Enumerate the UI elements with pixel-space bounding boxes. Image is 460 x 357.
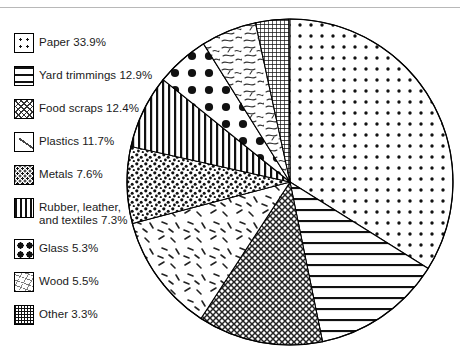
legend-item-other[interactable]: Other 3.3%	[14, 305, 98, 325]
legend-label-food-scraps: Food scraps 12.4%	[39, 99, 139, 115]
legend-swatch-rubber-leather-textiles	[14, 198, 34, 218]
pie-slice-rubber-leather-and-textiles[interactable]	[131, 80, 290, 182]
legend-label-paper: Paper 33.9%	[39, 33, 106, 49]
legend-item-rubber-leather-textiles[interactable]: Rubber, leather, and textiles 7.3%	[14, 198, 127, 226]
pie-slice-plastics[interactable]	[132, 182, 290, 319]
legend-item-paper[interactable]: Paper 33.9%	[14, 33, 106, 53]
legend-label-yard-trimmings: Yard trimmings 12.9%	[39, 66, 152, 82]
legend-item-food-scraps[interactable]: Food scraps 12.4%	[14, 99, 139, 119]
legend-label-metals: Metals 7.6%	[39, 165, 103, 181]
legend-label-plastics: Plastics 11.7%	[39, 132, 114, 148]
legend-swatch-glass	[14, 239, 34, 259]
pie-slice-wood[interactable]	[204, 23, 290, 182]
legend-item-metals[interactable]: Metals 7.6%	[14, 165, 103, 185]
legend-swatch-yard-trimmings	[14, 66, 34, 86]
pie-outline	[127, 19, 453, 345]
pie-slice-metals[interactable]	[127, 146, 290, 223]
legend-label-glass: Glass 5.3%	[39, 239, 98, 255]
legend-label-rubber-leather-textiles: Rubber, leather, and textiles 7.3%	[39, 198, 127, 226]
legend-label-wood: Wood 5.5%	[39, 272, 99, 288]
legend-item-plastics[interactable]: Plastics 11.7%	[14, 132, 114, 152]
legend-label-other: Other 3.3%	[39, 305, 98, 321]
legend-swatch-food-scraps	[14, 99, 34, 119]
legend-swatch-metals	[14, 165, 34, 185]
header-rule	[0, 7, 460, 8]
pie-slice-other[interactable]	[255, 19, 290, 182]
legend-swatch-plastics	[14, 132, 34, 152]
pie-slice-paper[interactable]	[290, 19, 453, 268]
legend-item-glass[interactable]: Glass 5.3%	[14, 239, 98, 259]
pie-slice-yard-trimmings[interactable]	[290, 182, 428, 342]
legend-item-wood[interactable]: Wood 5.5%	[14, 272, 99, 292]
legend-swatch-paper	[14, 33, 34, 53]
legend-swatch-wood	[14, 272, 34, 292]
pie-chart-figure: Paper 33.9% Yard trimmings 12.9% Food sc…	[0, 0, 460, 357]
pie-slice-glass[interactable]	[163, 44, 290, 182]
legend-item-yard-trimmings[interactable]: Yard trimmings 12.9%	[14, 66, 152, 86]
pie-slice-food-scraps[interactable]	[201, 182, 323, 345]
pie-slices-group	[127, 19, 453, 345]
legend-swatch-other	[14, 305, 34, 325]
